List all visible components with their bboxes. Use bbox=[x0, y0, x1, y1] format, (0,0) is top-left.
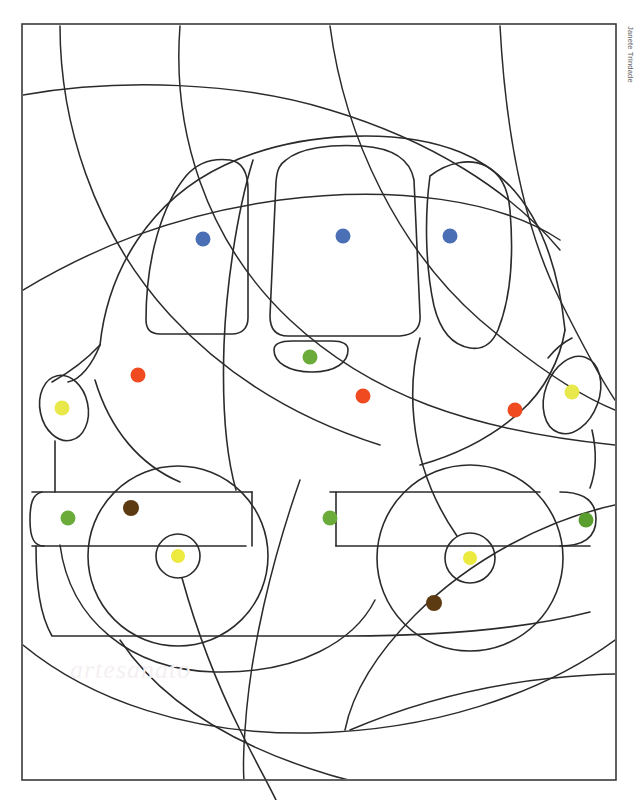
dot-hub-left bbox=[171, 549, 185, 563]
dot-grille bbox=[303, 350, 318, 365]
dot-bumper-right bbox=[579, 513, 594, 528]
dot-wheel-right-tire bbox=[426, 595, 442, 611]
dot-hood-left bbox=[131, 368, 146, 383]
dot-hood-right bbox=[508, 403, 523, 418]
dot-bumper-left bbox=[61, 511, 76, 526]
dot-wheel-left-tire bbox=[123, 500, 139, 516]
dot-left-window bbox=[196, 232, 211, 247]
coloring-page: artesanato Janete Trindade bbox=[0, 0, 640, 800]
dot-hood-center bbox=[356, 389, 371, 404]
dot-right-window bbox=[443, 229, 458, 244]
dot-center-windshield bbox=[336, 229, 351, 244]
line-art-canvas bbox=[0, 0, 640, 800]
dot-headlight-left bbox=[55, 401, 70, 416]
dot-headlight-right bbox=[565, 385, 580, 400]
dot-hub-right bbox=[463, 551, 477, 565]
dot-bumper-center bbox=[323, 511, 338, 526]
